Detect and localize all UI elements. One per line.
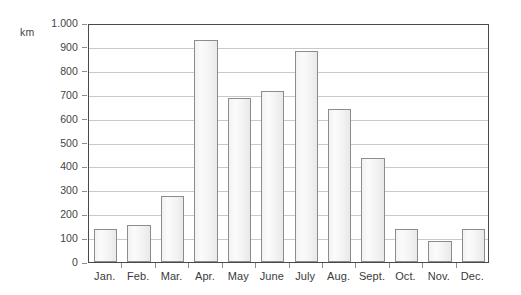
y-axis-tick-mark xyxy=(82,119,87,120)
x-axis-tick-label: Oct. xyxy=(389,270,422,282)
bar-chart: km 01002003004005006007008009001.000 Jan… xyxy=(0,0,521,295)
y-axis-tick-label: 200 xyxy=(34,208,78,220)
gridline xyxy=(89,96,488,97)
y-axis-tick-label: 300 xyxy=(34,184,78,196)
bar xyxy=(428,241,451,263)
y-axis-tick-mark xyxy=(82,71,87,72)
y-axis-tick-label: 700 xyxy=(34,89,78,101)
y-axis-tick-mark xyxy=(82,167,87,168)
plot-area xyxy=(88,24,489,263)
y-axis-tick-label: 1.000 xyxy=(34,17,78,29)
y-axis-tick-mark xyxy=(82,143,87,144)
gridline xyxy=(89,48,488,49)
bar xyxy=(462,229,485,262)
y-axis-tick-mark xyxy=(82,215,87,216)
x-axis-tick-label: Mar. xyxy=(155,270,188,282)
x-axis-tick-label: Nov. xyxy=(422,270,455,282)
y-axis-tick-label: 0 xyxy=(34,256,78,268)
x-axis-tick-label: Jan. xyxy=(88,270,121,282)
x-axis-tick-mark xyxy=(389,263,390,268)
x-axis-tick-mark xyxy=(422,263,423,268)
y-axis-tick-mark xyxy=(82,239,87,240)
y-axis-tick-label: 100 xyxy=(34,232,78,244)
bar xyxy=(161,196,184,262)
x-axis-tick-mark xyxy=(121,263,122,268)
y-axis-tick-label: 800 xyxy=(34,65,78,77)
x-axis-tick-mark xyxy=(222,263,223,268)
bar xyxy=(361,158,384,262)
gridline xyxy=(89,215,488,216)
x-axis-tick-label: Dec. xyxy=(456,270,489,282)
x-axis-tick-mark xyxy=(322,263,323,268)
gridline xyxy=(89,72,488,73)
x-axis-tick-label: Aug. xyxy=(322,270,355,282)
y-axis-tick-label: 900 xyxy=(34,41,78,53)
y-axis-tick-mark xyxy=(82,47,87,48)
bar xyxy=(94,229,117,262)
bar xyxy=(295,51,318,263)
y-axis-tick-mark xyxy=(82,24,87,25)
y-axis-tick-label: 400 xyxy=(34,160,78,172)
bar xyxy=(127,225,150,262)
y-axis-tick-label: 500 xyxy=(34,137,78,149)
gridline xyxy=(89,144,488,145)
x-axis-tick-mark xyxy=(289,263,290,268)
y-axis-unit-label: km xyxy=(20,26,34,38)
y-axis-tick-mark xyxy=(82,191,87,192)
x-axis-tick-label: May xyxy=(222,270,255,282)
gridline xyxy=(89,120,488,121)
x-axis-tick-mark xyxy=(255,263,256,268)
x-axis-tick-mark xyxy=(456,263,457,268)
x-axis-tick-label: June xyxy=(255,270,288,282)
bar xyxy=(395,229,418,262)
y-axis-tick-label: 600 xyxy=(34,113,78,125)
y-axis-tick-mark xyxy=(82,95,87,96)
gridline xyxy=(89,167,488,168)
x-axis-tick-mark xyxy=(188,263,189,268)
x-axis-tick-label: Apr. xyxy=(188,270,221,282)
x-axis-tick-label: Feb. xyxy=(121,270,154,282)
x-axis-tick-label: Sept. xyxy=(355,270,388,282)
bar xyxy=(194,40,217,262)
x-axis-tick-mark xyxy=(355,263,356,268)
gridline xyxy=(89,191,488,192)
bar xyxy=(228,98,251,262)
x-axis-tick-label: July xyxy=(289,270,322,282)
bar xyxy=(328,109,351,262)
bar xyxy=(261,91,284,262)
y-axis-tick-mark xyxy=(82,263,87,264)
x-axis-tick-mark xyxy=(155,263,156,268)
